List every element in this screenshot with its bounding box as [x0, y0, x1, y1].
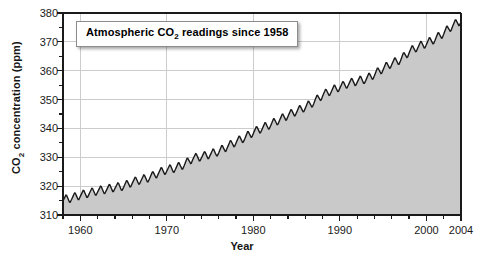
chart-title-text: Atmospheric CO2 readings since 1958 [86, 26, 288, 38]
y-tick-label: 310 [18, 209, 58, 221]
x-tick-label: 1980 [241, 224, 265, 236]
x-tick-label: 2004 [449, 224, 473, 236]
y-axis-title: CO2 concentration (ppm) [10, 8, 25, 208]
x-tick-label: 1990 [328, 224, 352, 236]
co2-chart: 310320330340350360370380 196019701980199… [0, 0, 484, 263]
y-axis-title-text: CO2 concentration (ppm) [10, 41, 22, 174]
x-axis-title: Year [0, 240, 484, 252]
x-tick-label: 2000 [414, 224, 438, 236]
x-tick-label: 1970 [155, 224, 179, 236]
x-tick-label: 1960 [68, 224, 92, 236]
chart-title-box: Atmospheric CO2 readings since 1958 [76, 21, 298, 47]
